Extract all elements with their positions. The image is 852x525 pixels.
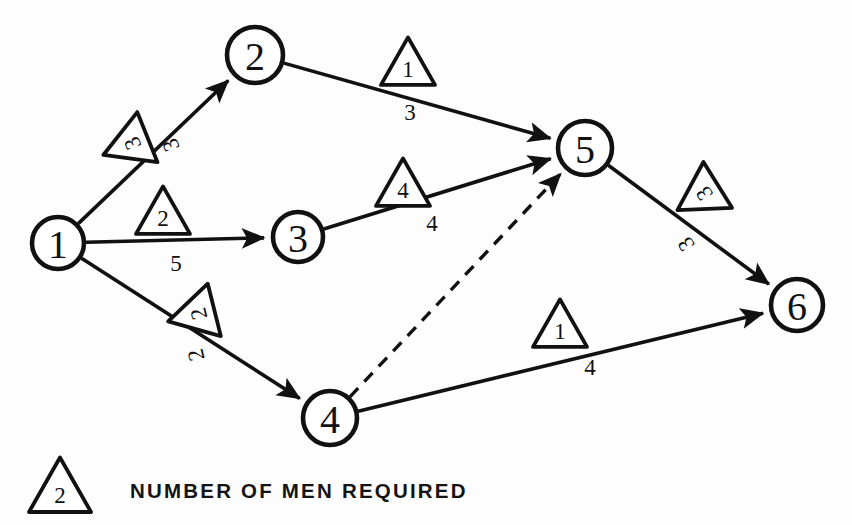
legend: 2NUMBER OF MEN REQUIRED bbox=[29, 457, 468, 512]
diagram-canvas: 33252213441433 123456 2NUMBER OF MEN REQ… bbox=[0, 0, 852, 525]
men-required-value: 1 bbox=[554, 319, 566, 344]
duration-value: 4 bbox=[584, 355, 596, 380]
node-4[interactable]: 4 bbox=[303, 391, 357, 445]
men-required-marker-3-5: 4 bbox=[376, 158, 430, 206]
node-label: 5 bbox=[575, 127, 595, 172]
men-required-value: 2 bbox=[157, 206, 169, 231]
duration-label-1-3: 5 bbox=[170, 251, 182, 276]
men-required-marker-4-6: 1 bbox=[533, 299, 587, 347]
node-5[interactable]: 5 bbox=[558, 121, 612, 175]
duration-value: 4 bbox=[426, 211, 438, 236]
node-label: 4 bbox=[320, 397, 340, 442]
edge-5-to-6 bbox=[608, 165, 769, 284]
duration-value: 3 bbox=[672, 232, 699, 255]
duration-label-3-5: 4 bbox=[426, 211, 438, 236]
duration-value: 3 bbox=[157, 135, 184, 155]
duration-label-1-2: 3 bbox=[157, 135, 184, 155]
legend-group: 2NUMBER OF MEN REQUIRED bbox=[29, 457, 468, 512]
node-6[interactable]: 6 bbox=[771, 279, 823, 331]
men-required-value: 1 bbox=[402, 57, 414, 82]
node-1[interactable]: 1 bbox=[32, 217, 84, 269]
duration-label-1-4: 2 bbox=[182, 346, 209, 363]
duration-label-5-6: 3 bbox=[672, 232, 699, 255]
duration-value: 5 bbox=[170, 251, 182, 276]
node-2[interactable]: 2 bbox=[227, 27, 283, 83]
men-required-marker-1-2: 3 bbox=[93, 112, 157, 180]
men-required-value: 4 bbox=[397, 178, 409, 203]
network-diagram: 33252213441433 123456 2NUMBER OF MEN REQ… bbox=[0, 0, 852, 525]
duration-label-4-6: 4 bbox=[584, 355, 596, 380]
men-required-marker-1-3: 2 bbox=[136, 186, 190, 234]
node-3[interactable]: 3 bbox=[273, 212, 323, 262]
duration-value: 3 bbox=[404, 100, 416, 125]
node-label: 6 bbox=[787, 284, 807, 329]
edges-layer bbox=[78, 63, 769, 411]
legend-symbol-value: 2 bbox=[54, 483, 66, 508]
duration-value: 2 bbox=[182, 346, 209, 363]
node-label: 1 bbox=[48, 222, 68, 267]
duration-label-2-5: 3 bbox=[404, 100, 416, 125]
node-label: 2 bbox=[245, 34, 265, 79]
men-required-marker-5-6: 3 bbox=[663, 162, 732, 233]
edge-1-to-3 bbox=[86, 238, 264, 242]
legend-caption: NUMBER OF MEN REQUIRED bbox=[130, 479, 468, 502]
men-required-marker-2-5: 1 bbox=[381, 37, 435, 85]
node-label: 3 bbox=[288, 216, 308, 261]
